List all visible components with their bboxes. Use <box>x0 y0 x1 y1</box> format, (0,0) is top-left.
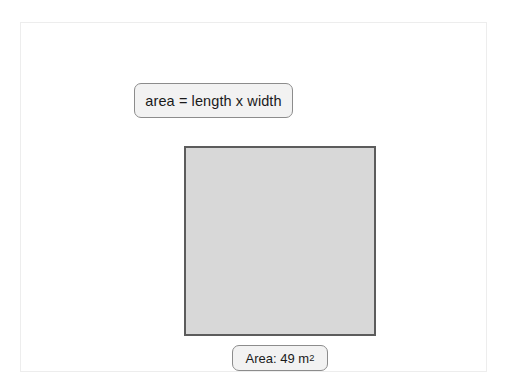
area-result-label: Area: 49 m2 <box>232 345 328 371</box>
diagram-panel: area = length x width Area: 49 m2 <box>20 22 487 372</box>
formula-label-text: area = length x width <box>145 93 281 109</box>
diagram-canvas: area = length x width Area: 49 m2 <box>0 0 506 392</box>
area-result-text: Area: 49 m <box>246 351 310 366</box>
square-shape <box>184 146 376 336</box>
formula-label: area = length x width <box>134 83 293 118</box>
